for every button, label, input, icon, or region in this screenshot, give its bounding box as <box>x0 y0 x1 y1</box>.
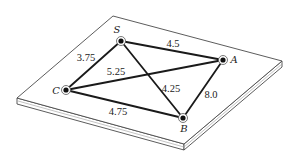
node-label-S: S <box>114 24 121 35</box>
weight-label-C-A: 5.25 <box>107 66 125 77</box>
weight-label-A-B: 8.0 <box>204 89 217 100</box>
weight-label-S-A: 4.5 <box>166 38 179 49</box>
weight-label-S-C: 3.75 <box>77 52 95 63</box>
node-dot-icon <box>118 38 123 43</box>
node-B: B <box>179 114 188 135</box>
plate-top-face <box>17 16 282 144</box>
node-label-C: C <box>52 85 60 96</box>
node-label-B: B <box>179 123 187 134</box>
node-dot-icon <box>220 57 225 62</box>
node-label-A: A <box>229 54 237 65</box>
node-dot-icon <box>180 115 185 120</box>
weight-label-S-B: 4.25 <box>162 83 180 94</box>
weight-label-C-B: 4.75 <box>109 106 127 117</box>
plate <box>17 16 282 150</box>
graph-diagram: 4.5 3.75 5.25 4.25 8.0 4.75 S A C B <box>0 0 298 162</box>
node-dot-icon <box>63 87 68 92</box>
